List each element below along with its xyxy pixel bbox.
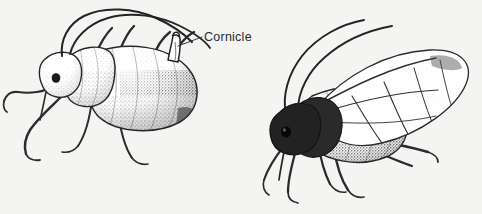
cornicle-label: Cornicle [204, 31, 252, 44]
compound-eye [52, 73, 61, 83]
compound-eye-alate [281, 126, 291, 137]
aphid-illustration-figure: Cornicle [0, 0, 482, 214]
compound-eye-highlight [283, 128, 286, 131]
